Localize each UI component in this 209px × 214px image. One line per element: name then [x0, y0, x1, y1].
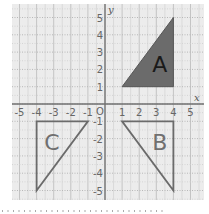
x-tick-label: 4 [170, 107, 176, 118]
y-tick-label: -3 [93, 151, 103, 162]
y-tick-label: 3 [97, 47, 103, 58]
x-tick-label: 3 [153, 107, 159, 118]
y-tick-label: -4 [93, 168, 103, 179]
y-tick-label: -1 [93, 116, 103, 127]
y-axis-label: y [107, 4, 114, 15]
triangle-label-a: A [152, 52, 167, 77]
x-tick-label: -3 [49, 107, 59, 118]
coordinate-grid: x y O -5-4-3-2-11234554321-1-2-3-4-5 ABC [0, 0, 209, 214]
y-tick-label: -5 [93, 186, 103, 197]
y-tick-label: 5 [97, 13, 103, 24]
x-tick-label: -2 [66, 107, 76, 118]
x-tick-label: -1 [83, 107, 93, 118]
y-tick-label: 2 [97, 64, 103, 75]
x-tick-label: -4 [32, 107, 42, 118]
grid-background [12, 4, 204, 200]
x-tick-label: -5 [15, 107, 25, 118]
y-tick-label: 4 [97, 30, 103, 41]
y-tick-label: 1 [97, 82, 103, 93]
x-tick-label: 2 [136, 107, 142, 118]
triangle-label-b: B [152, 130, 167, 155]
y-tick-label: -2 [93, 134, 103, 145]
x-axis-label: x [194, 92, 200, 103]
x-tick-label: 5 [187, 107, 193, 118]
x-tick-label: 1 [119, 107, 125, 118]
triangle-label-c: C [44, 130, 59, 155]
